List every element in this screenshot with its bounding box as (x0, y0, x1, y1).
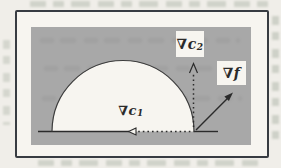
constraint-index: 2 (197, 43, 204, 52)
constraint-symbol: c (188, 37, 197, 51)
nabla-symbol: ∇ (118, 104, 128, 117)
grad-f-arrow (196, 97, 229, 130)
feasible-halfdisk (52, 61, 194, 132)
constraint-symbol: c (129, 104, 137, 117)
grad-c1-label: ∇c1 (116, 102, 146, 119)
grad-c2-label: ∇c2 (176, 31, 204, 57)
nabla-symbol: ∇ (177, 37, 188, 51)
scanned-figure-page: ∇c2 ∇f ∇c1 (0, 0, 281, 168)
constraint-index: 1 (137, 109, 144, 118)
grad-c2-arrowhead (190, 64, 198, 74)
objective-symbol: f (234, 66, 241, 80)
nabla-symbol: ∇ (223, 66, 234, 80)
grad-f-label: ∇f (217, 61, 246, 85)
